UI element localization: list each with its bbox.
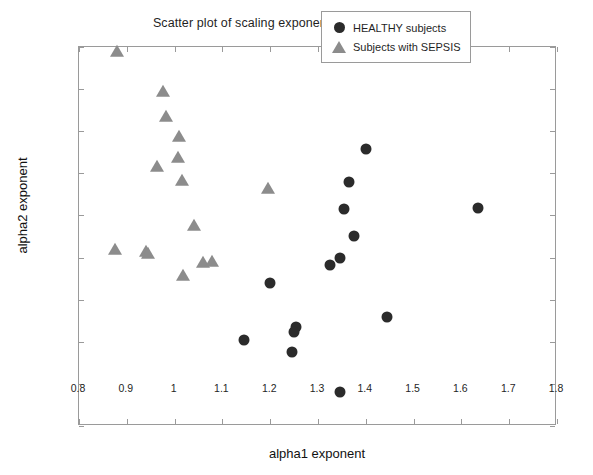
x-tick (557, 419, 558, 424)
x-tick-top (127, 47, 128, 52)
legend-label-healthy: HEALTHY subjects (353, 22, 446, 34)
x-tick-label: 1.8 (549, 382, 564, 394)
y-tick (79, 131, 84, 132)
y-axis-title: alpha2 exponent (15, 36, 30, 376)
y-tick-right (550, 47, 555, 48)
data-point-sepsis (159, 110, 173, 122)
y-tick-right (550, 173, 555, 174)
y-tick-right (550, 342, 555, 343)
data-point-healthy (238, 335, 249, 346)
x-tick-label: 1.2 (262, 382, 277, 394)
x-tick-label: 1.7 (501, 382, 516, 394)
chart-title: Scatter plot of scaling exponents alpha1… (0, 16, 593, 30)
y-tick (79, 215, 84, 216)
y-tick (79, 89, 84, 90)
x-tick (222, 419, 223, 424)
y-tick-right (550, 215, 555, 216)
x-tick-label: 1 (171, 382, 177, 394)
x-tick (127, 419, 128, 424)
x-tick (318, 419, 319, 424)
triangle-marker-icon (329, 41, 349, 53)
x-tick-top (509, 47, 510, 52)
chart-legend: HEALTHY subjects Subjects with SEPSIS (321, 11, 471, 63)
y-tick (79, 300, 84, 301)
data-point-healthy (473, 202, 484, 213)
x-tick (414, 419, 415, 424)
scatter-plot-figure: Scatter plot of scaling exponents alpha1… (0, 0, 593, 475)
data-point-sepsis (141, 247, 155, 259)
data-point-healthy (265, 277, 276, 288)
data-point-healthy (360, 143, 371, 154)
y-tick (79, 173, 84, 174)
data-point-sepsis (110, 45, 124, 57)
circle-marker-icon (329, 22, 349, 33)
data-point-sepsis (205, 255, 219, 267)
y-tick-right (550, 300, 555, 301)
legend-item-sepsis: Subjects with SEPSIS (329, 37, 463, 56)
x-tick-label: 1.3 (310, 382, 325, 394)
data-point-sepsis (150, 160, 164, 172)
x-tick-top (222, 47, 223, 52)
plot-area (78, 46, 556, 425)
x-tick (175, 419, 176, 424)
y-tick-right (550, 258, 555, 259)
x-axis-title: alpha1 exponent (78, 446, 556, 461)
x-tick-label: 1.5 (405, 382, 420, 394)
x-tick-label: 1.6 (453, 382, 468, 394)
data-point-sepsis (261, 182, 275, 194)
y-tick (79, 258, 84, 259)
data-point-healthy (286, 346, 297, 357)
data-point-sepsis (187, 219, 201, 231)
x-tick (461, 419, 462, 424)
x-tick (79, 419, 80, 424)
data-point-sepsis (156, 84, 170, 96)
data-point-healthy (334, 252, 345, 263)
x-tick-top (557, 47, 558, 52)
x-tick-label: 0.9 (118, 382, 133, 394)
data-point-sepsis (172, 130, 186, 142)
data-point-sepsis (108, 243, 122, 255)
x-tick-label: 0.8 (71, 382, 86, 394)
x-tick (509, 419, 510, 424)
data-point-healthy (382, 312, 393, 323)
data-point-sepsis (176, 269, 190, 281)
legend-item-healthy: HEALTHY subjects (329, 18, 463, 37)
y-tick (79, 426, 84, 427)
data-point-sepsis (171, 151, 185, 163)
y-tick-right (550, 131, 555, 132)
x-tick-top (318, 47, 319, 52)
data-point-healthy (289, 326, 300, 337)
data-point-healthy (344, 176, 355, 187)
data-point-sepsis (175, 174, 189, 186)
x-tick-label: 1.4 (357, 382, 372, 394)
x-tick-top (175, 47, 176, 52)
x-tick (270, 419, 271, 424)
data-point-healthy (339, 203, 350, 214)
x-tick-label: 1.1 (214, 382, 229, 394)
legend-label-sepsis: Subjects with SEPSIS (353, 41, 461, 53)
y-tick (79, 342, 84, 343)
y-tick-right (550, 426, 555, 427)
data-point-healthy (334, 387, 345, 398)
y-tick (79, 47, 84, 48)
x-tick-top (270, 47, 271, 52)
y-tick-right (550, 89, 555, 90)
data-point-healthy (348, 230, 359, 241)
x-tick (366, 419, 367, 424)
data-point-healthy (324, 260, 335, 271)
